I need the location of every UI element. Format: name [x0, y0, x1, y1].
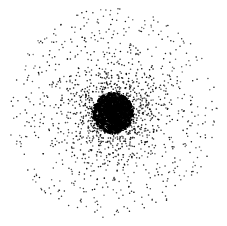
node-dot	[100, 9, 102, 11]
node-dot	[108, 72, 110, 74]
node-dot	[112, 140, 114, 142]
node-dot	[135, 122, 137, 124]
node-dot	[113, 177, 115, 179]
node-dot	[113, 93, 116, 96]
node-dot	[68, 103, 70, 105]
node-dot	[24, 109, 26, 111]
node-dot	[98, 141, 100, 143]
node-dot	[144, 130, 146, 132]
node-dot	[112, 138, 114, 140]
node-dot	[148, 146, 150, 148]
node-dot	[115, 110, 118, 113]
node-dot	[195, 56, 197, 58]
node-dot	[158, 96, 160, 98]
node-dot	[181, 109, 183, 111]
node-dot	[93, 111, 96, 114]
node-dot	[100, 206, 102, 208]
node-dot	[122, 81, 124, 83]
node-dot	[11, 100, 13, 102]
node-dot	[142, 204, 144, 206]
node-dot	[130, 137, 132, 139]
node-dot	[88, 157, 90, 159]
node-dot	[20, 143, 22, 145]
node-dot	[171, 119, 173, 121]
node-dot	[74, 155, 76, 157]
node-dot	[194, 115, 196, 117]
node-dot	[167, 178, 169, 180]
node-dot	[148, 172, 150, 174]
node-dot	[140, 148, 142, 150]
node-dot	[143, 164, 145, 166]
node-dot	[98, 149, 100, 151]
node-dot	[104, 148, 106, 150]
node-dot	[56, 141, 58, 143]
node-dot	[122, 100, 125, 103]
node-dot	[119, 129, 122, 132]
node-dot	[183, 175, 185, 177]
node-dot	[70, 112, 72, 114]
node-dot	[34, 65, 36, 67]
node-dot	[136, 72, 138, 74]
node-dot	[51, 86, 53, 88]
node-dot	[128, 81, 130, 83]
node-dot	[205, 107, 207, 109]
node-dot	[144, 151, 146, 153]
node-dot	[117, 91, 119, 93]
node-dot	[183, 110, 185, 112]
node-dot	[84, 88, 86, 90]
node-dot	[102, 114, 105, 117]
node-dot	[113, 34, 115, 36]
node-dot	[75, 93, 77, 95]
node-dot	[133, 103, 135, 105]
node-dot	[47, 96, 49, 98]
node-dot	[120, 72, 122, 74]
node-dot	[77, 207, 79, 209]
node-dot	[86, 11, 88, 13]
node-dot	[149, 131, 151, 133]
node-dot	[106, 155, 108, 157]
node-dot	[87, 67, 89, 69]
node-dot	[196, 79, 198, 81]
node-dot	[150, 76, 152, 78]
node-dot	[77, 72, 79, 74]
node-dot	[148, 83, 150, 85]
node-dot	[84, 173, 86, 175]
node-dot	[63, 133, 65, 135]
node-dot	[165, 151, 167, 153]
node-dot	[119, 121, 122, 124]
node-dot	[76, 14, 78, 16]
node-dot	[98, 72, 100, 74]
node-dot	[107, 186, 109, 188]
node-dot	[110, 97, 113, 100]
node-dot	[96, 154, 98, 156]
node-dot	[140, 99, 142, 101]
node-dot	[164, 80, 166, 82]
node-dot	[58, 198, 60, 200]
node-dot	[97, 119, 100, 122]
node-dot	[165, 186, 167, 188]
node-dot	[72, 173, 74, 175]
node-dot	[42, 153, 44, 155]
node-dot	[171, 70, 173, 72]
node-dot	[125, 31, 127, 33]
node-dot	[133, 126, 135, 128]
node-dot	[121, 64, 123, 66]
node-dot	[104, 163, 106, 165]
node-dot	[77, 139, 79, 141]
node-dot	[127, 207, 129, 209]
node-dot	[141, 140, 143, 142]
node-dot	[151, 199, 153, 201]
node-dot	[141, 124, 143, 126]
node-dot	[35, 135, 37, 137]
node-dot	[97, 103, 100, 106]
node-dot	[91, 125, 93, 127]
node-dot	[80, 143, 82, 145]
node-dot	[117, 143, 119, 145]
node-dot	[153, 77, 155, 79]
node-dot	[141, 27, 143, 29]
node-dot	[119, 91, 121, 93]
node-dot	[19, 135, 21, 137]
node-dot	[88, 112, 90, 114]
node-dot	[130, 91, 132, 93]
node-dot	[177, 80, 179, 82]
